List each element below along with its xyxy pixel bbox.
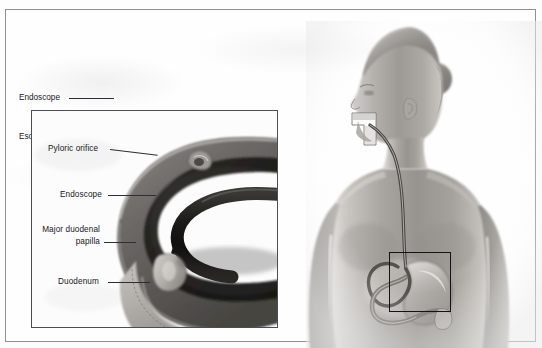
figure-vignette — [306, 21, 542, 348]
cut-off-header-text: · · · · ·· · ·· ·· · — [0, 0, 542, 3]
pyloric-opening — [194, 158, 204, 166]
body-figure — [306, 21, 542, 348]
inset-label-endoscope: Endoscope — [60, 190, 102, 200]
inset-label-major-duodenal-papilla-line2: papilla — [38, 237, 100, 247]
inset-label-duodenum: Duodenum — [58, 277, 99, 287]
inset-leader-major-duodenal-papilla — [104, 242, 136, 243]
page-frame: Endoscope Esophagus — [5, 9, 536, 342]
inset-label-pyloric-orifice: Pyloric orifice — [48, 144, 98, 154]
body-figure-svg — [306, 21, 542, 348]
figure-label-endoscope: Endoscope — [19, 93, 60, 102]
inset-magnified-panel: Pyloric orifice Endoscope Major duodenal… — [31, 110, 278, 328]
inset-leader-duodenum — [108, 282, 150, 283]
inset-leader-endoscope — [108, 195, 156, 196]
figure-leader-endoscope — [69, 98, 114, 99]
illustration-page: · · · · ·· · ·· ·· · — [0, 0, 542, 348]
inset-label-major-duodenal-papilla-line1: Major duodenal — [38, 225, 100, 235]
